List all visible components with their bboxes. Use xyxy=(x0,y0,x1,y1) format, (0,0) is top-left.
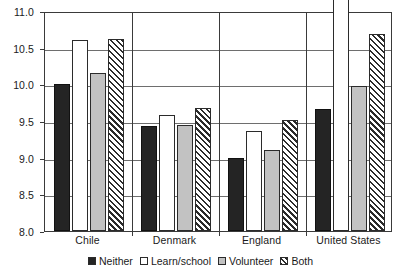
legend-label: Learn/school xyxy=(151,255,211,267)
x-axis: Chile Denmark England United States xyxy=(44,234,392,252)
bar xyxy=(315,109,331,231)
x-category-label: Chile xyxy=(75,234,99,246)
bar xyxy=(282,120,298,231)
bar xyxy=(351,86,367,231)
legend-item-volunteer: Volunteer xyxy=(218,255,273,267)
plot-area xyxy=(44,12,392,232)
x-category-label: United States xyxy=(316,234,380,246)
legend-item-neither: Neither xyxy=(88,255,133,267)
bar xyxy=(333,0,349,231)
y-tick-label: 11.0 xyxy=(14,6,34,18)
y-tick-mark xyxy=(40,232,44,233)
legend-label: Both xyxy=(291,255,313,267)
legend-swatch-icon xyxy=(280,257,288,265)
bar xyxy=(369,34,385,231)
group-separator xyxy=(219,13,220,231)
y-tick-label: 9.0 xyxy=(19,153,34,165)
bar xyxy=(141,126,157,231)
y-tick-label: 8.5 xyxy=(19,189,34,201)
y-tick-label: 10.5 xyxy=(13,43,34,55)
legend-item-learn-school: Learn/school xyxy=(140,255,211,267)
y-tick-label: 9.5 xyxy=(19,116,34,128)
chart-legend: Neither Learn/school Volunteer Both xyxy=(0,255,401,267)
bar xyxy=(246,131,262,231)
group-separator xyxy=(132,13,133,231)
y-tick-label: 10.0 xyxy=(13,79,34,91)
legend-label: Volunteer xyxy=(229,255,273,267)
legend-item-both: Both xyxy=(280,255,313,267)
legend-swatch-icon xyxy=(88,257,96,265)
bar xyxy=(72,40,88,231)
y-axis: 11.0 10.5 10.0 9.5 9.0 8.5 8.0 xyxy=(0,0,40,274)
bar xyxy=(195,108,211,231)
x-category-label: England xyxy=(242,234,281,246)
legend-label: Neither xyxy=(99,255,133,267)
x-category-label: Denmark xyxy=(153,234,196,246)
bar-chart: 11.0 10.5 10.0 9.5 9.0 8.5 8.0 Chile Den… xyxy=(0,0,401,274)
legend-swatch-icon xyxy=(140,257,148,265)
bar xyxy=(90,73,106,231)
bar xyxy=(264,150,280,231)
bar xyxy=(177,125,193,231)
y-tick-label: 8.0 xyxy=(19,226,34,238)
bar xyxy=(228,158,244,231)
bar xyxy=(159,115,175,231)
bar xyxy=(108,39,124,231)
bar xyxy=(54,84,70,231)
legend-swatch-icon xyxy=(218,257,226,265)
group-separator xyxy=(306,13,307,231)
